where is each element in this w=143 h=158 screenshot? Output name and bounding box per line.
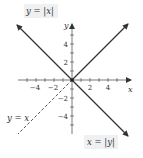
- label-x-abs-y: x = |y|: [87, 137, 115, 148]
- x-tick-neg2: −2: [48, 84, 58, 92]
- x-tick-neg4: −4: [30, 84, 41, 92]
- y-tick-4: 4: [64, 41, 69, 49]
- y-tick-neg4: −4: [58, 113, 69, 121]
- x-tick-2: 2: [88, 84, 92, 92]
- label-y-eq-x: y = x: [6, 113, 29, 123]
- graph: −4 −2 2 4 4 2 −2 −4 x y y = |x| x = |y| …: [0, 0, 143, 158]
- curve-shared-right-up: [72, 24, 128, 80]
- x-axis-label: x: [128, 85, 133, 94]
- curve-y-eq-x-dashed: [18, 80, 72, 134]
- curve-x-abs-y-down: [72, 80, 128, 136]
- x-axis: [18, 78, 131, 82]
- y-axis-label: y: [63, 21, 69, 30]
- curve-y-abs-x-left: [17, 25, 72, 80]
- y-tick-neg2: −2: [58, 95, 68, 103]
- origin-point: [70, 78, 74, 82]
- label-y-abs-x: y = |x|: [25, 6, 54, 17]
- y-tick-2: 2: [64, 59, 68, 67]
- x-tick-4: 4: [106, 84, 111, 92]
